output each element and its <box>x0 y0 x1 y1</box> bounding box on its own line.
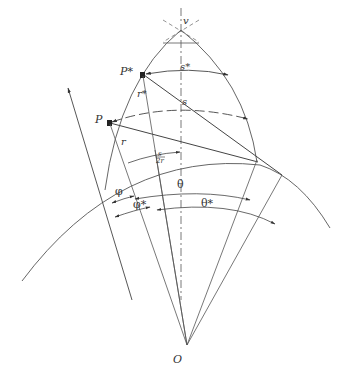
point-Pstar-marker <box>140 72 145 78</box>
arc-theta <box>135 194 250 200</box>
arch-left <box>105 30 181 190</box>
arch-right <box>181 30 257 162</box>
arc-s-over-2r <box>128 152 180 163</box>
diagram-canvas: v P* s* r* s P r s 2r φ φ* θ θ* O <box>0 0 343 380</box>
label-theta: θ <box>177 178 184 191</box>
label-r-star: r* <box>137 88 147 99</box>
label-P-star: P* <box>119 65 133 78</box>
radial-line-s <box>187 160 257 345</box>
label-s: s <box>182 96 187 107</box>
chord-P <box>110 123 258 162</box>
point-P-marker <box>107 120 112 126</box>
label-theta-star: θ* <box>201 197 214 210</box>
s-arc <box>112 110 248 122</box>
geometry-diagram: v P* s* r* s P r s 2r φ φ* θ θ* O <box>0 0 343 380</box>
label-s-star: s* <box>180 61 190 72</box>
label-phi: φ <box>115 185 123 198</box>
label-r: r <box>121 136 127 147</box>
base-circle-arc <box>22 163 330 281</box>
chord-Pstar <box>144 75 282 175</box>
label-v: v <box>183 15 189 26</box>
label-s-over-2r-den: 2r <box>155 157 164 165</box>
label-O: O <box>173 353 182 366</box>
label-P: P <box>94 113 103 126</box>
arc-theta-star <box>157 207 275 224</box>
label-phi-star: φ* <box>133 198 147 211</box>
